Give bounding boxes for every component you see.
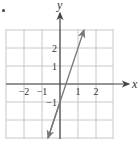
y-tick-label: −1	[46, 97, 57, 108]
x-tick-label: −1	[37, 86, 48, 97]
y-tick-label: 1	[52, 61, 57, 72]
x-tick-label: 1	[76, 86, 81, 97]
y-tick-label: 2	[52, 43, 57, 54]
coordinate-graph: −2−11221−1 x y	[0, 0, 140, 152]
x-axis-label: x	[131, 77, 138, 91]
x-tick-label: −2	[19, 86, 30, 97]
x-tick-label: 2	[94, 86, 99, 97]
y-axis-label: y	[56, 0, 63, 12]
tick-labels: −2−11221−1	[19, 43, 99, 108]
